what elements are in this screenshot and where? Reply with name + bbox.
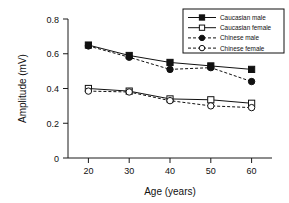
series-3 bbox=[85, 88, 255, 111]
data-point-marker bbox=[208, 103, 214, 109]
data-point-marker bbox=[126, 89, 132, 95]
data-point-marker bbox=[167, 59, 173, 65]
data-point-marker bbox=[167, 97, 173, 103]
y-axis-title: Amplitude (mV) bbox=[17, 54, 28, 123]
x-axis-ticks bbox=[88, 158, 251, 163]
y-axis-ticks bbox=[63, 19, 68, 158]
chart-svg: 0 0.2 0.4 0.6 0.8 20 30 40 50 60 Age (ye… bbox=[0, 0, 289, 203]
legend-label: Caucasian female bbox=[220, 24, 272, 31]
data-point-marker bbox=[199, 15, 204, 20]
legend-label: Chinese male bbox=[220, 34, 260, 41]
data-point-marker bbox=[167, 66, 173, 72]
data-point-marker bbox=[248, 104, 254, 110]
x-tick-label-0: 20 bbox=[83, 166, 93, 176]
x-tick-label-4: 60 bbox=[247, 166, 257, 176]
y-tick-label-0: 0 bbox=[54, 154, 59, 164]
data-point-marker bbox=[199, 45, 204, 50]
data-point-marker bbox=[199, 35, 204, 40]
x-tick-label-1: 30 bbox=[124, 166, 134, 176]
data-point-marker bbox=[85, 43, 91, 49]
legend-entry-0: Caucasian male bbox=[188, 14, 266, 21]
data-point-marker bbox=[199, 25, 204, 30]
data-point-marker bbox=[208, 97, 214, 103]
y-tick-label-4: 0.8 bbox=[46, 15, 59, 25]
x-tick-label-3: 50 bbox=[206, 166, 216, 176]
x-tick-label-2: 40 bbox=[165, 166, 175, 176]
data-point-marker bbox=[248, 78, 254, 84]
data-point-marker bbox=[126, 54, 132, 60]
data-point-marker bbox=[208, 64, 214, 70]
legend-label: Chinese female bbox=[220, 45, 265, 52]
x-axis-title: Age (years) bbox=[144, 186, 196, 197]
y-tick-label-1: 0.2 bbox=[46, 119, 59, 129]
y-tick-label-2: 0.4 bbox=[46, 84, 59, 94]
legend: Caucasian maleCaucasian femaleChinese ma… bbox=[183, 9, 284, 53]
legend-label: Caucasian male bbox=[220, 14, 266, 21]
data-point-marker bbox=[85, 88, 91, 94]
data-point-marker bbox=[249, 66, 255, 72]
legend-entry-1: Caucasian female bbox=[188, 24, 272, 31]
figure-container: 0 0.2 0.4 0.6 0.8 20 30 40 50 60 Age (ye… bbox=[0, 0, 289, 203]
y-tick-label-3: 0.6 bbox=[46, 49, 59, 59]
